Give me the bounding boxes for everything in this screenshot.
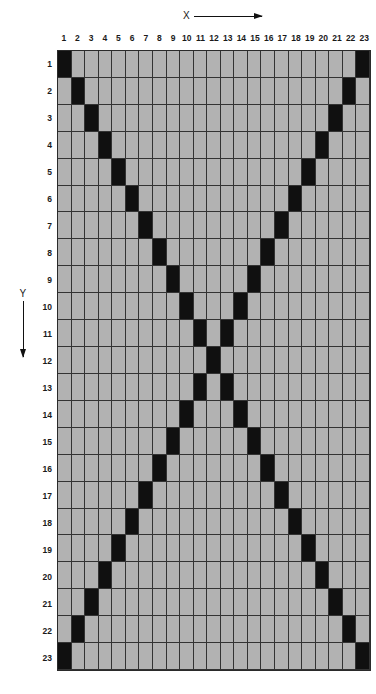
grid-cell xyxy=(194,293,208,320)
grid-cell xyxy=(234,428,248,455)
grid-cell xyxy=(329,266,343,293)
grid-cell xyxy=(356,51,370,78)
grid-cell xyxy=(261,374,275,401)
grid-cell xyxy=(58,428,72,455)
grid-cell xyxy=(275,320,289,347)
grid-cell xyxy=(99,78,113,105)
row-label: 13 xyxy=(28,374,53,401)
grid-cell xyxy=(261,293,275,320)
grid-cell xyxy=(234,509,248,536)
grid-cell xyxy=(85,562,99,589)
grid-cell xyxy=(302,562,316,589)
grid-cell xyxy=(194,401,208,428)
grid-cell xyxy=(207,509,221,536)
grid-cell xyxy=(207,535,221,562)
grid-cell xyxy=(58,347,72,374)
grid-cell xyxy=(194,616,208,643)
x-axis-label: X xyxy=(183,11,190,21)
grid-cell xyxy=(167,616,181,643)
grid-cell xyxy=(180,159,194,186)
column-label: 18 xyxy=(289,31,303,45)
grid-cell xyxy=(194,132,208,159)
grid-cell xyxy=(289,212,303,239)
grid-cell xyxy=(275,428,289,455)
row-label: 16 xyxy=(28,455,53,482)
grid-cell xyxy=(248,347,262,374)
grid-cell xyxy=(112,509,126,536)
grid-cell xyxy=(234,266,248,293)
grid-cell xyxy=(356,320,370,347)
grid-cell xyxy=(356,105,370,132)
grid-cell xyxy=(72,509,86,536)
grid-cell xyxy=(289,347,303,374)
grid-cell xyxy=(126,186,140,213)
grid-cell xyxy=(261,509,275,536)
grid-cell xyxy=(275,643,289,670)
grid-cell xyxy=(275,482,289,509)
grid-cell xyxy=(329,374,343,401)
grid-cell xyxy=(207,401,221,428)
grid-cell xyxy=(221,535,235,562)
grid-cell xyxy=(126,643,140,670)
raster-grid xyxy=(57,50,371,671)
grid-cell xyxy=(248,186,262,213)
row-label: 12 xyxy=(28,347,53,374)
grid-cell xyxy=(72,455,86,482)
grid-cell xyxy=(207,239,221,266)
grid-cell xyxy=(302,293,316,320)
grid-cell xyxy=(139,239,153,266)
grid-cell xyxy=(221,212,235,239)
grid-cell xyxy=(99,186,113,213)
grid-cell xyxy=(329,643,343,670)
grid-cell xyxy=(139,347,153,374)
grid-cell xyxy=(234,78,248,105)
column-label: 16 xyxy=(262,31,276,45)
grid-cell xyxy=(153,643,167,670)
grid-cell xyxy=(221,401,235,428)
grid-cell xyxy=(289,455,303,482)
grid-cell xyxy=(261,105,275,132)
grid-cell xyxy=(248,643,262,670)
grid-cell xyxy=(112,132,126,159)
grid-cell xyxy=(126,482,140,509)
grid-cell xyxy=(153,159,167,186)
grid-cell xyxy=(316,186,330,213)
grid-cell xyxy=(234,643,248,670)
grid-cell xyxy=(153,616,167,643)
row-label: 9 xyxy=(28,266,53,293)
grid-cell xyxy=(126,562,140,589)
grid-cell xyxy=(139,643,153,670)
grid-cell xyxy=(180,132,194,159)
grid-cell xyxy=(248,212,262,239)
grid-cell xyxy=(139,212,153,239)
grid-cell xyxy=(180,374,194,401)
grid-cell xyxy=(85,347,99,374)
grid-cell xyxy=(356,159,370,186)
grid-cell xyxy=(112,428,126,455)
grid-cell xyxy=(58,132,72,159)
column-label: 13 xyxy=(221,31,235,45)
grid-cell xyxy=(112,186,126,213)
grid-cell xyxy=(139,159,153,186)
grid-cell xyxy=(99,132,113,159)
column-label: 20 xyxy=(316,31,330,45)
grid-cell xyxy=(58,401,72,428)
grid-cell xyxy=(153,428,167,455)
grid-cell xyxy=(302,374,316,401)
grid-cell xyxy=(167,51,181,78)
grid-cell xyxy=(153,132,167,159)
grid-cell xyxy=(275,401,289,428)
row-label: 19 xyxy=(28,536,53,563)
grid-cell xyxy=(85,643,99,670)
grid-cell xyxy=(180,589,194,616)
grid-cell xyxy=(356,455,370,482)
grid-cell xyxy=(289,562,303,589)
grid-cell xyxy=(139,320,153,347)
grid-cell xyxy=(99,320,113,347)
grid-cell xyxy=(167,78,181,105)
grid-cell xyxy=(275,132,289,159)
grid-cell xyxy=(234,212,248,239)
grid-cell xyxy=(139,428,153,455)
grid-cell xyxy=(153,347,167,374)
grid-cell xyxy=(194,266,208,293)
